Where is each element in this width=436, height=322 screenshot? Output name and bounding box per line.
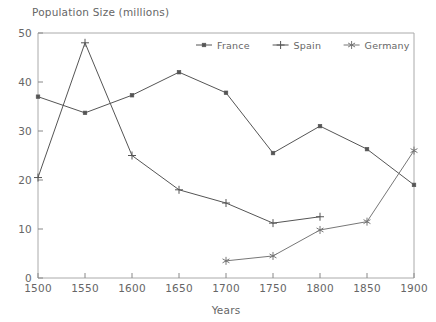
- legend-item-spain[interactable]: Spain: [273, 40, 322, 51]
- legend-item-france[interactable]: France: [196, 40, 250, 51]
- marker-france: [365, 147, 369, 151]
- marker-france: [318, 124, 322, 128]
- chart-legend: FranceSpainGermany: [196, 40, 410, 51]
- marker-france: [271, 151, 275, 155]
- marker-spain: [222, 199, 230, 207]
- y-axis-ticks: 01020304050: [18, 27, 43, 284]
- plot-border: [38, 33, 414, 278]
- series-france: [36, 70, 416, 186]
- y-tick-label: 50: [18, 27, 32, 39]
- series-line-spain: [38, 43, 320, 223]
- x-tick-label: 1800: [306, 282, 334, 294]
- legend-item-germany[interactable]: Germany: [344, 40, 410, 51]
- x-tick-label: 1900: [400, 282, 428, 294]
- plot-frame: [38, 33, 414, 278]
- series-germany: [223, 147, 418, 265]
- marker-france: [224, 91, 228, 95]
- marker-france: [177, 70, 181, 74]
- x-axis-ticks: 150015501600165017001750180018501900: [24, 273, 428, 294]
- marker-spain: [175, 186, 183, 194]
- marker-spain: [81, 39, 89, 47]
- x-axis-label: Years: [211, 304, 241, 316]
- x-tick-label: 1850: [353, 282, 381, 294]
- marker-spain: [316, 213, 324, 221]
- marker-france: [36, 95, 40, 99]
- legend-marker-square-icon: [202, 43, 206, 47]
- legend-marker-plus-icon: [277, 41, 285, 49]
- y-tick-label: 10: [18, 223, 32, 235]
- x-tick-label: 1500: [24, 282, 52, 294]
- chart-title-group: Population Size (millions): [32, 6, 169, 18]
- chart-title: Population Size (millions): [32, 6, 169, 18]
- x-tick-label: 1600: [118, 282, 146, 294]
- marker-france: [83, 111, 87, 115]
- series-line-france: [38, 72, 414, 185]
- x-tick-label: 1750: [259, 282, 287, 294]
- population-line-chart: Population Size (millions) 01020304050 1…: [0, 0, 436, 322]
- marker-spain: [128, 152, 136, 160]
- legend-label-germany: Germany: [365, 40, 410, 51]
- y-tick-label: 30: [18, 125, 32, 137]
- y-tick-label: 20: [18, 174, 32, 186]
- marker-france: [412, 183, 416, 187]
- chart-canvas: Population Size (millions) 01020304050 1…: [0, 0, 436, 322]
- x-tick-label: 1650: [165, 282, 193, 294]
- series-line-germany: [226, 151, 414, 261]
- legend-label-france: France: [217, 40, 250, 51]
- legend-label-spain: Spain: [294, 40, 322, 51]
- x-tick-label: 1550: [71, 282, 99, 294]
- marker-france: [130, 93, 134, 97]
- y-tick-label: 40: [18, 76, 32, 88]
- x-tick-label: 1700: [212, 282, 240, 294]
- data-series-group: [34, 39, 417, 265]
- series-spain: [34, 39, 324, 227]
- marker-spain: [269, 219, 277, 227]
